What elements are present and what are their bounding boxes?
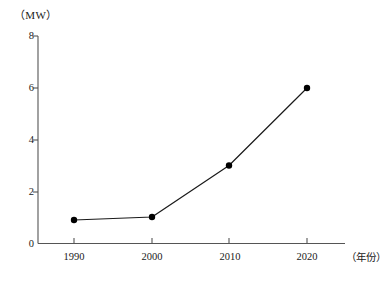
data-point-2000 <box>149 214 155 220</box>
data-point-2020 <box>304 85 310 91</box>
data-line-series-1 <box>74 88 307 220</box>
y-axis-ticks <box>33 36 38 192</box>
x-axis-ticks <box>74 238 307 244</box>
data-point-markers <box>71 85 310 223</box>
data-point-1990 <box>71 217 77 223</box>
data-point-2010 <box>226 162 232 168</box>
